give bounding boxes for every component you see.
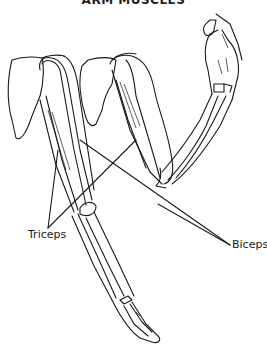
right-arm [80,14,242,188]
arm-illustration [0,0,267,359]
label-biceps: Biceps [232,238,267,251]
label-triceps: Triceps [28,228,66,241]
